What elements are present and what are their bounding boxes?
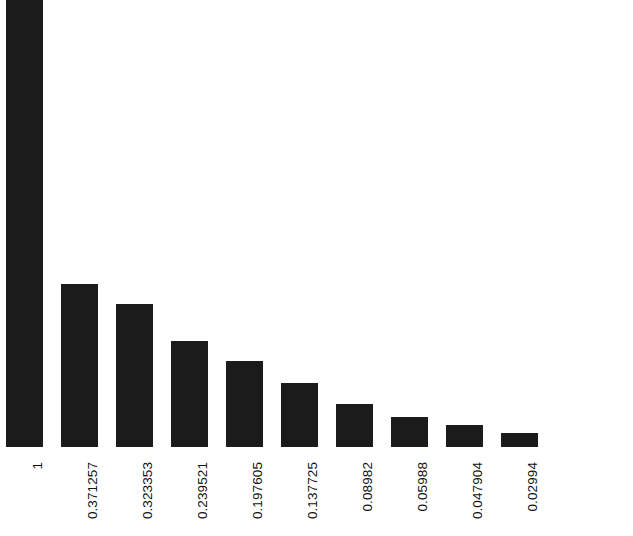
x-axis-tick-label-text: 0.02994 <box>526 462 540 512</box>
x-axis-tick-label-text: 0.197605 <box>251 462 265 519</box>
x-axis-tick-label-text: 0.371257 <box>86 462 100 519</box>
bar <box>6 0 43 447</box>
x-axis-tick-label: 0.02994 <box>526 462 540 512</box>
x-axis-tick-label-text: 0.047904 <box>471 462 485 519</box>
x-axis-tick-label-text: 0.05988 <box>416 462 430 512</box>
x-axis-tick-label: 0.371257 <box>86 462 100 519</box>
x-axis-tick-label: 0.323353 <box>141 462 155 519</box>
bar <box>336 404 373 447</box>
x-axis-tick-label: 0.047904 <box>471 462 485 519</box>
bar <box>226 361 263 447</box>
x-axis-tick-label: 0.239521 <box>196 462 210 519</box>
x-axis-tick-label-text: 1 <box>31 462 45 470</box>
plot-area <box>0 0 633 447</box>
x-axis-tick-label-text: 0.239521 <box>196 462 210 519</box>
bar <box>446 425 483 447</box>
bar <box>116 304 153 447</box>
x-axis-tick-label-text: 0.137725 <box>306 462 320 519</box>
bar <box>501 433 538 447</box>
x-axis-tick-label-text: 0.08982 <box>361 462 375 512</box>
x-axis-tick-label: 0.05988 <box>416 462 430 512</box>
bar <box>281 383 318 447</box>
x-axis-tick-label-text: 0.323353 <box>141 462 155 519</box>
x-axis-tick-label: 0.197605 <box>251 462 265 519</box>
x-axis-tick-label: 0.137725 <box>306 462 320 519</box>
x-axis-tick-label: 1 <box>31 462 45 470</box>
bar <box>391 417 428 447</box>
bar <box>61 284 98 447</box>
bar <box>171 341 208 447</box>
bar-chart: 1 0.371257 0.323353 0.239521 0.197605 0.… <box>0 0 633 536</box>
x-axis-tick-label: 0.08982 <box>361 462 375 512</box>
x-axis-tick-labels: 1 0.371257 0.323353 0.239521 0.197605 0.… <box>0 447 633 536</box>
